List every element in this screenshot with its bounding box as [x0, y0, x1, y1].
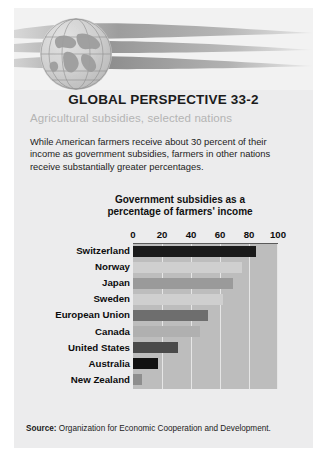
x-tick-100: 100 [270, 229, 286, 240]
bar-norway [133, 262, 242, 273]
bar-row: Japan [0, 276, 327, 292]
bar-row: New Zealand [0, 373, 327, 389]
bar-row: Norway [0, 260, 327, 276]
bar-row: Sweden [0, 292, 327, 308]
bar-label-switzerland: Switzerland [18, 245, 130, 256]
bar-row: Canada [0, 325, 327, 341]
bar-row: United States [0, 341, 327, 357]
x-tick-40: 40 [186, 229, 197, 240]
x-tick-20: 20 [157, 229, 168, 240]
bar-label-japan: Japan [18, 277, 130, 288]
bar-rows: SwitzerlandNorwayJapanSwedenEuropean Uni… [0, 244, 327, 389]
source-note: Source: Organization for Economic Cooper… [26, 424, 306, 433]
source-text: Organization for Economic Cooperation an… [59, 424, 271, 433]
bar-label-canada: Canada [18, 326, 130, 337]
bar-australia [133, 358, 158, 369]
chart-title-line-2: percentage of farmers' income [60, 206, 300, 218]
globe-icon [40, 18, 112, 90]
bar-switzerland [133, 246, 256, 257]
intro-paragraph: While American farmers receive about 30 … [30, 136, 298, 173]
bar-new-zealand [133, 374, 142, 385]
header-band [14, 8, 313, 90]
x-tick-60: 60 [215, 229, 226, 240]
page-subtitle: Agricultural subsidies, selected nations [30, 112, 310, 124]
bar-label-norway: Norway [18, 261, 130, 272]
bar-row: Australia [0, 357, 327, 373]
source-label: Source: [26, 424, 56, 433]
bar-european-union [133, 310, 208, 321]
chart-title-line-1: Government subsidies as a [60, 194, 300, 206]
bar-canada [133, 326, 200, 337]
bar-row: European Union [0, 308, 327, 324]
page-title: GLOBAL PERSPECTIVE 33-2 [0, 92, 327, 107]
x-axis-tick-labels: 020406080100 [0, 229, 327, 243]
bar-label-sweden: Sweden [18, 293, 130, 304]
x-tick-80: 80 [244, 229, 255, 240]
bar-row: Switzerland [0, 244, 327, 260]
bar-sweden [133, 294, 223, 305]
bar-label-new-zealand: New Zealand [18, 374, 130, 385]
bar-label-european-union: European Union [18, 309, 130, 320]
bar-label-australia: Australia [18, 358, 130, 369]
bar-japan [133, 278, 233, 289]
chart-title: Government subsidies as a percentage of … [60, 194, 300, 218]
bar-label-united-states: United States [18, 342, 130, 353]
global-perspective-figure: GLOBAL PERSPECTIVE 33-2 Agricultural sub… [0, 0, 327, 455]
bar-united-states [133, 342, 178, 353]
x-tick-0: 0 [130, 229, 135, 240]
